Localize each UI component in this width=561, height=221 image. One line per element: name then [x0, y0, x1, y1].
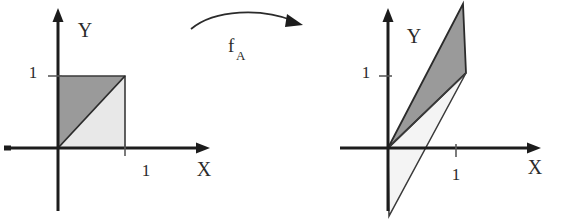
image-y-axis-label: Y — [407, 25, 421, 47]
domain-y-axis-label: Y — [78, 19, 92, 41]
map-arrow-head — [285, 14, 303, 27]
domain-x-axis-arrowhead — [196, 143, 210, 154]
map-arrow-label-subscript: A — [236, 48, 246, 63]
map-arrow-group: f A — [191, 12, 303, 63]
image-x-axis-arrowhead — [527, 143, 541, 154]
image-x-tick-label: 1 — [452, 165, 461, 184]
transformation-figure: 1 1 Y X f A 1 1 Y X — [0, 0, 561, 221]
map-arrow-curve — [191, 12, 294, 29]
image-x-axis-label: X — [528, 156, 543, 178]
domain-y-axis-arrowhead — [53, 8, 64, 22]
domain-y-tick-label: 1 — [29, 63, 38, 82]
domain-x-axis-left-cap — [4, 146, 11, 151]
panel-domain: 1 1 Y X — [4, 8, 212, 211]
image-y-tick-label: 1 — [362, 63, 371, 82]
domain-x-axis-label: X — [197, 158, 212, 180]
domain-x-tick-label: 1 — [142, 161, 151, 180]
panel-image: 1 1 Y X — [340, 4, 543, 216]
map-arrow-label-main: f — [228, 35, 235, 56]
image-y-axis-arrowhead — [383, 8, 394, 22]
